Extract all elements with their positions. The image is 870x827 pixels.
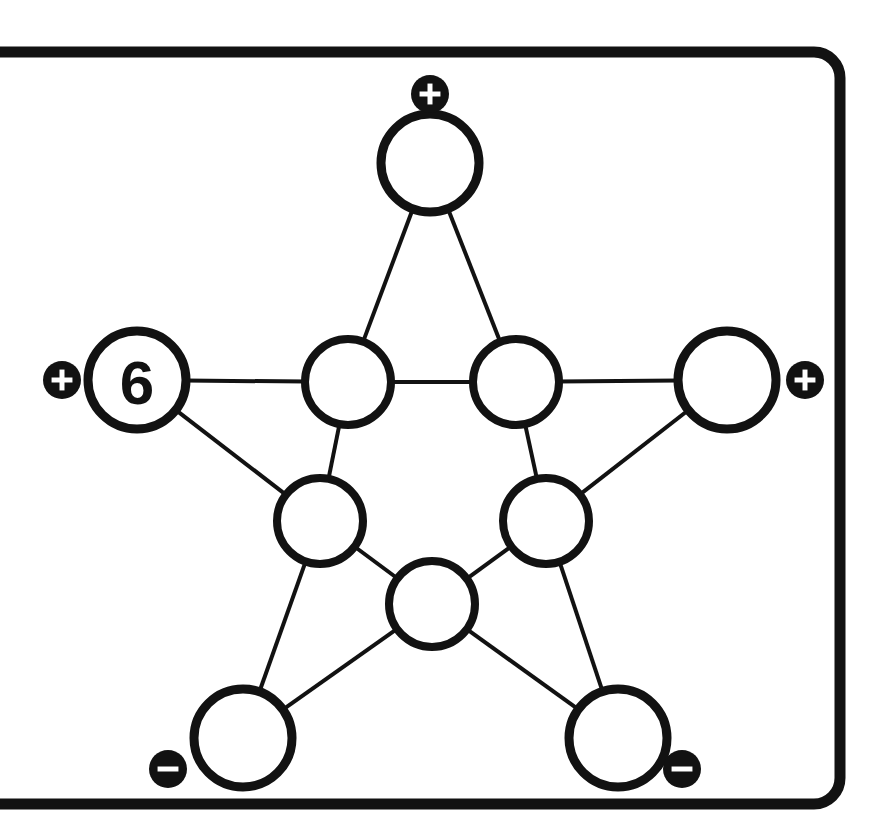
inner-upper-left-node[interactable] [305, 339, 391, 425]
right-point-node-circle[interactable] [678, 331, 776, 429]
inner-right-node-circle[interactable] [503, 478, 589, 564]
left-point-node[interactable]: 6 [88, 331, 186, 429]
bottom-left-point-node[interactable] [194, 689, 292, 787]
edge-left-to-inner-left [175, 409, 287, 495]
edge-inner-upper-right-to-inner-right [525, 423, 537, 480]
edge-bottom-left-to-inner-left [259, 561, 306, 693]
minus-badge-icon[interactable] [663, 750, 701, 788]
edge-left-to-inner-upper-left [185, 380, 306, 381]
edge-right-to-inner-right [579, 409, 689, 495]
top-point-node-circle[interactable] [381, 114, 479, 212]
inner-left-node[interactable] [277, 478, 363, 564]
edge-right-to-inner-upper-right [558, 380, 679, 381]
inner-bottom-node-circle[interactable] [389, 561, 475, 647]
bottom-left-point-node-circle[interactable] [194, 689, 292, 787]
inner-left-node-circle[interactable] [277, 478, 363, 564]
minus-badge-icon[interactable] [149, 750, 187, 788]
edge-top-to-inner-upper-left [363, 208, 413, 343]
right-point-node[interactable] [678, 331, 776, 429]
star-puzzle-diagram: 6 [0, 0, 870, 827]
node-layer: 6 [88, 114, 776, 787]
inner-upper-right-node[interactable] [473, 339, 559, 425]
bottom-right-point-node[interactable] [569, 689, 667, 787]
edge-inner-upper-left-to-inner-left [328, 423, 339, 480]
inner-bottom-node[interactable] [389, 561, 475, 647]
inner-upper-right-node-circle[interactable] [473, 339, 559, 425]
bottom-right-point-node-circle[interactable] [569, 689, 667, 787]
plus-badge-icon[interactable] [411, 75, 449, 113]
inner-upper-left-node-circle[interactable] [305, 339, 391, 425]
edge-bottom-right-to-inner-bottom [466, 629, 579, 710]
edge-inner-right-to-inner-bottom [466, 546, 512, 580]
edge-inner-left-to-inner-bottom [354, 546, 399, 579]
plus-badge-icon[interactable] [43, 361, 81, 399]
puzzle-stage: 6 [0, 0, 870, 827]
edge-top-to-inner-upper-right [448, 208, 501, 343]
edge-bottom-right-to-inner-right [559, 561, 603, 693]
edge-bottom-left-to-inner-bottom [282, 628, 398, 710]
left-point-node-value: 6 [120, 348, 154, 417]
top-point-node[interactable] [381, 114, 479, 212]
plus-badge-icon[interactable] [786, 361, 824, 399]
inner-right-node[interactable] [503, 478, 589, 564]
